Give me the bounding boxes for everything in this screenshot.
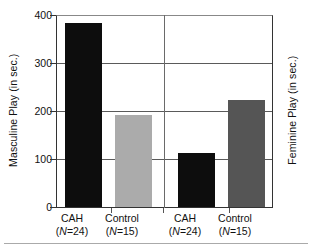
y-axis-title-right: Feminine Play (in sec.) [287, 25, 298, 195]
bar-feminine-cah [178, 153, 215, 207]
bar-masculine-cah [65, 23, 102, 207]
bottom-divider-rule [4, 243, 308, 244]
y-tick-label-400: 400 [12, 10, 52, 21]
y-tick-label-0: 0 [12, 202, 52, 213]
plot-area [56, 15, 273, 208]
bar-feminine-control [228, 100, 265, 207]
x-label-masculine-control: Control (N=15) [91, 212, 153, 237]
bar-chart-figure: Masculine Play (in sec.) Feminine Play (… [0, 0, 312, 251]
y-tick-label-300: 300 [12, 58, 52, 69]
y-tick-label-100: 100 [12, 154, 52, 165]
x-label-name: Control [91, 212, 153, 225]
bar-masculine-control [115, 115, 152, 207]
x-label-n: (N=15) [91, 225, 153, 238]
x-label-feminine-control: Control (N=15) [204, 212, 266, 237]
x-label-n: (N=15) [204, 225, 266, 238]
y-tick-label-200: 200 [12, 106, 52, 117]
panel-divider [164, 15, 165, 208]
x-label-name: Control [204, 212, 266, 225]
